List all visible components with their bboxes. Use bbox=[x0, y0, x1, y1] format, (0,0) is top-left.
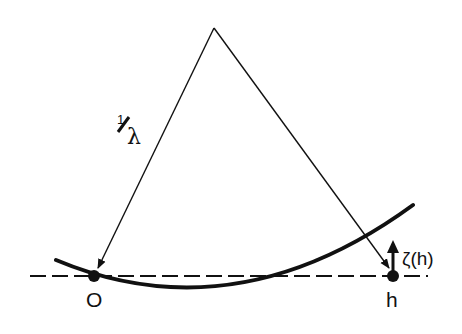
left-ray bbox=[98, 28, 214, 268]
h-label: h bbox=[386, 288, 398, 312]
h-point bbox=[387, 270, 399, 282]
inverse-lambda-numerator: 1 bbox=[117, 112, 124, 127]
right-ray bbox=[214, 28, 389, 268]
origin-point bbox=[88, 270, 100, 282]
zeta-label: ζ(h) bbox=[402, 248, 434, 270]
diagram-svg bbox=[0, 0, 462, 334]
diagram-canvas: 1 λ O h ζ(h) bbox=[0, 0, 462, 334]
inverse-lambda-denominator: λ bbox=[127, 124, 141, 149]
origin-label: O bbox=[86, 288, 102, 312]
